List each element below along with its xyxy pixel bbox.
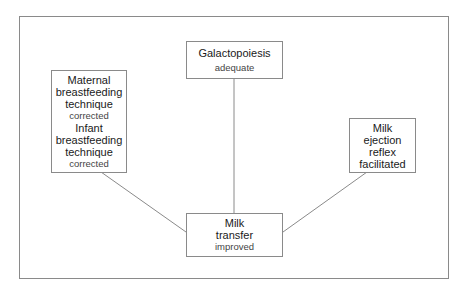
link-technique-transfer [101, 172, 186, 232]
node-title-line: ejection [350, 134, 415, 146]
node-milk-ejection: Milk ejection reflex facilitated [349, 118, 416, 173]
node-status: corrected [52, 158, 126, 170]
node-title-line: Milk [187, 217, 282, 229]
node-title-line: technique [52, 98, 126, 110]
node-title-line: facilitated [350, 158, 415, 170]
node-milk-transfer: Milk transfer improved [186, 213, 283, 257]
node-status: adequate [187, 62, 282, 74]
node-title-line: technique [52, 146, 126, 158]
node-status: improved [187, 241, 282, 253]
node-title-line: Infant [52, 122, 126, 134]
node-galactopoiesis: Galactopoiesis adequate [186, 41, 283, 79]
node-title-line: reflex [350, 146, 415, 158]
node-title: Galactopoiesis [187, 47, 282, 59]
node-title-line: Maternal [52, 74, 126, 86]
node-title-line: breastfeeding [52, 86, 126, 98]
link-ejection-transfer [283, 172, 367, 232]
node-title-line: breastfeeding [52, 134, 126, 146]
node-status: corrected [52, 110, 126, 122]
node-title-line: transfer [187, 229, 282, 241]
node-title-line: Milk [350, 122, 415, 134]
node-breastfeeding-technique: Maternal breastfeeding technique correct… [51, 70, 127, 173]
